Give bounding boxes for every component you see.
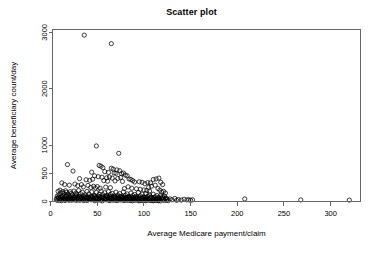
data-point <box>120 179 124 183</box>
x-tick-label: 100 <box>138 209 151 218</box>
data-point <box>65 162 69 166</box>
data-point <box>82 33 86 37</box>
data-point <box>243 197 247 201</box>
data-point <box>157 176 161 180</box>
y-tick-label: 1000 <box>40 137 49 154</box>
x-tick-label: 150 <box>184 209 197 218</box>
data-point <box>119 175 123 179</box>
data-point <box>154 177 158 181</box>
data-point <box>67 183 71 187</box>
x-tick-label: 300 <box>324 209 337 218</box>
data-point <box>116 176 120 180</box>
plot-canvas: 0501001502002503000500100020003000Averag… <box>0 0 383 255</box>
data-point <box>130 186 134 190</box>
data-point <box>94 144 98 148</box>
y-tick-label: 3000 <box>40 24 49 41</box>
plot-frame <box>53 30 361 202</box>
y-tick-label: 500 <box>40 167 49 180</box>
data-point <box>71 169 75 173</box>
data-point <box>77 177 81 181</box>
data-points-layer <box>54 33 351 203</box>
data-point <box>104 185 108 189</box>
y-tick-label: 2000 <box>40 80 49 97</box>
y-tick-label: 0 <box>40 199 49 203</box>
x-axis-title: Average Medicare payment/claim <box>147 229 266 238</box>
data-point <box>90 170 94 174</box>
axis-labels-layer: 0501001502002503000500100020003000Averag… <box>9 24 337 238</box>
x-tick-label: 250 <box>278 209 291 218</box>
data-point <box>117 151 121 155</box>
axes-layer <box>49 30 361 206</box>
data-point <box>108 186 112 190</box>
data-point <box>113 179 117 183</box>
y-axis-title: Average beneficiary count/day <box>9 62 18 169</box>
x-tick-label: 0 <box>49 209 53 218</box>
x-tick-label: 50 <box>93 209 101 218</box>
x-tick-label: 200 <box>231 209 244 218</box>
data-point <box>109 42 113 46</box>
data-point <box>182 197 186 201</box>
scatter-plot-figure: Scatter plot 050100150200250300050010002… <box>0 0 383 255</box>
